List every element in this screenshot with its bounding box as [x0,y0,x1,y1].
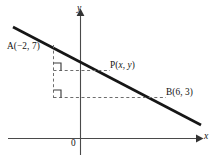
point-b-label: B(6, 3) [166,88,193,97]
coordinate-geometry-figure: y x 0 A(−2, 7) P(x, y) B(6, 3) [0,0,217,159]
right-angle-mark-lower [54,90,62,98]
y-axis-label: y [77,3,81,13]
point-a-label: A(−2, 7) [7,42,40,51]
point-p-label: P(x, y) [110,61,135,70]
x-axis-arrowhead [196,135,204,143]
figure-canvas [0,0,217,159]
line-through-a-p-b [13,27,201,125]
point-p-suffix: ) [132,60,135,70]
right-angle-mark-upper [54,63,62,71]
origin-label: 0 [71,139,76,148]
x-axis-label: x [204,131,208,141]
